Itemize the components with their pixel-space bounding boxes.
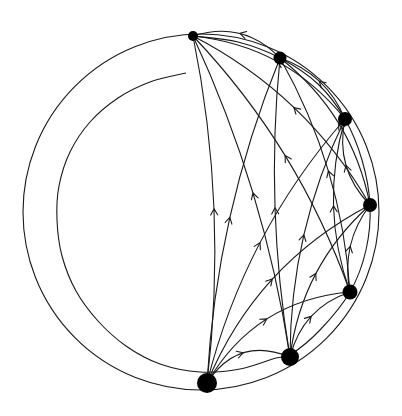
- vertex-v1: [197, 373, 217, 393]
- arrowhead-icon: [260, 319, 267, 325]
- tournament-diagram: [0, 0, 402, 416]
- edge-v1-to-v3: [207, 292, 350, 383]
- vertex-v5: [338, 112, 352, 126]
- vertex-v2: [281, 348, 299, 366]
- vertex-v4: [363, 198, 377, 212]
- edge-v2-to-v3: [290, 292, 350, 357]
- vertex-v6: [274, 52, 287, 65]
- edge-v1-to-v7: [193, 36, 215, 383]
- vertex-v3: [343, 285, 358, 300]
- edge-v4-to-v5: [343, 119, 370, 205]
- edge-v2-to-v7: [193, 36, 290, 357]
- edge-group: [193, 31, 370, 383]
- edge-v1-to-v6: [207, 58, 280, 383]
- vertex-v7: [188, 31, 198, 41]
